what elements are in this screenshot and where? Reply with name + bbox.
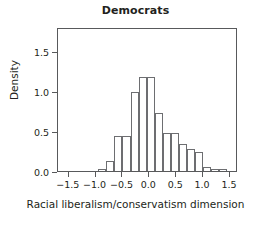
histogram-bar xyxy=(179,144,187,171)
histogram-bars xyxy=(58,29,236,171)
histogram-bar xyxy=(211,169,219,171)
y-axis-tick-label: 0.5 xyxy=(34,127,49,138)
y-axis-tick-label: 1.5 xyxy=(34,47,49,58)
x-axis-tick xyxy=(229,172,230,177)
histogram-bar xyxy=(98,169,106,171)
x-axis-tick xyxy=(121,172,122,177)
x-axis: Racial liberalism/conservatism dimension… xyxy=(0,172,271,227)
histogram-bar xyxy=(147,77,155,171)
histogram-bar xyxy=(106,161,114,171)
x-axis-tick-label: 0.5 xyxy=(168,179,183,190)
y-axis-label: Density xyxy=(8,60,20,100)
x-axis-tick-label: 1.0 xyxy=(195,179,210,190)
histogram-bar xyxy=(122,136,130,171)
histogram-bar xyxy=(155,113,163,171)
x-axis-tick-label: 1.5 xyxy=(221,179,236,190)
histogram-bar xyxy=(203,167,211,171)
histogram-figure: Democrats Density 0.00.51.01.5 Racial li… xyxy=(0,0,271,227)
x-axis-tick-label: −0.5 xyxy=(110,179,133,190)
x-axis-tick-label: −1.0 xyxy=(83,179,106,190)
histogram-bar xyxy=(114,136,122,171)
y-axis-tick-label: 1.0 xyxy=(34,87,49,98)
histogram-bar xyxy=(219,169,227,171)
x-axis-label: Racial liberalism/conservatism dimension xyxy=(0,198,271,210)
x-axis-tick-label: −1.5 xyxy=(56,179,79,190)
x-axis-tick xyxy=(148,172,149,177)
histogram-bar xyxy=(163,133,171,171)
x-axis-tick xyxy=(95,172,96,177)
histogram-bar xyxy=(131,92,139,171)
plot-area xyxy=(57,28,237,172)
x-axis-tick-label: 0.0 xyxy=(141,179,156,190)
x-axis-tick xyxy=(68,172,69,177)
x-axis-tick xyxy=(175,172,176,177)
x-axis-tick xyxy=(202,172,203,177)
histogram-bar xyxy=(187,149,195,171)
histogram-bar xyxy=(195,152,203,171)
histogram-bar xyxy=(171,133,179,171)
histogram-bar xyxy=(139,77,147,171)
